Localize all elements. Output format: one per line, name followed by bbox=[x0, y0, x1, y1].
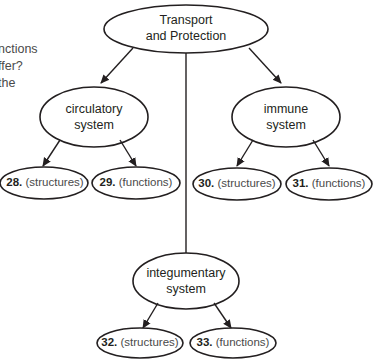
circulatory-node: circulatory system bbox=[44, 101, 144, 133]
answer-30-structures: 30. (structures) bbox=[194, 177, 280, 189]
circulatory-line-2: system bbox=[44, 117, 144, 133]
arrow-root-to-immune bbox=[249, 48, 281, 83]
answer-31-functions: 31. (functions) bbox=[286, 177, 372, 189]
integumentary-line-2: system bbox=[131, 281, 241, 297]
arrow-root-to-circulatory bbox=[101, 48, 133, 83]
root-line-1: Transport bbox=[126, 12, 246, 28]
side-text-line-3: the bbox=[0, 75, 15, 91]
answer-28-structures: 28. (structures) bbox=[2, 176, 88, 188]
immune-node: immune system bbox=[236, 101, 336, 133]
side-text-line-2: ffer? bbox=[0, 58, 23, 74]
integumentary-line-1: integumentary bbox=[131, 265, 241, 281]
integumentary-node: integumentary system bbox=[131, 265, 241, 297]
answer-32-structures: 32. (structures) bbox=[97, 336, 183, 348]
immune-line-2: system bbox=[236, 117, 336, 133]
immune-line-1: immune bbox=[236, 101, 336, 117]
circulatory-line-1: circulatory bbox=[44, 101, 144, 117]
answer-33-functions: 33. (functions) bbox=[190, 336, 276, 348]
root-node: Transport and Protection bbox=[126, 12, 246, 44]
answer-29-functions: 29. (functions) bbox=[93, 176, 179, 188]
root-line-2: and Protection bbox=[126, 28, 246, 44]
side-text-line-1: nctions bbox=[0, 41, 38, 57]
